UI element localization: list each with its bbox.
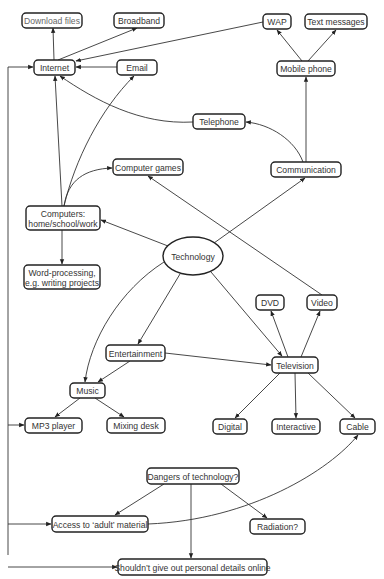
node-music: Music	[70, 383, 105, 398]
edge-technology-to-television	[211, 272, 282, 356]
edge-dangers-to-access	[115, 484, 164, 515]
node-label: Digital	[218, 422, 242, 432]
edge-entertainment-to-television	[165, 353, 271, 365]
node-communication: Communication	[271, 162, 341, 177]
node-label: Video	[311, 298, 333, 308]
node-mp3: MP3 player	[25, 418, 82, 433]
node-label: Communication	[276, 165, 336, 175]
technology-mind-map: Download filesBroadbandWAPText messagesI…	[0, 0, 384, 579]
node-mixing: Mixing desk	[107, 418, 165, 433]
node-label: Computers:	[41, 209, 85, 219]
node-access: Access to ‘adult’ material	[52, 516, 148, 532]
edge-computers-to-internet	[55, 76, 62, 206]
edge-entertainment-to-music	[98, 361, 130, 382]
node-mobile: Mobile phone	[277, 61, 335, 76]
node-broadband: Broadband	[114, 13, 164, 28]
node-internet: Internet	[34, 60, 75, 75]
node-label: WAP	[267, 17, 287, 27]
node-label: Television	[276, 361, 314, 371]
node-dvd: DVD	[256, 295, 284, 310]
node-television: Television	[272, 357, 318, 373]
node-label: Radiation?	[257, 522, 298, 532]
node-video: Video	[307, 295, 337, 310]
edge-television-to-interactive	[295, 373, 296, 418]
node-label: Music	[76, 386, 99, 396]
node-label: Mobile phone	[280, 64, 332, 74]
node-label: DVD	[261, 298, 279, 308]
node-label: Email	[126, 63, 148, 73]
edge-technology-to-computers	[101, 220, 168, 246]
edge-technology-to-communication	[214, 178, 305, 243]
node-telephone: Telephone	[193, 114, 245, 129]
node-label: Technology	[171, 252, 215, 262]
node-label: Dangers of technology?	[148, 472, 239, 482]
node-dangers: Dangers of technology?	[147, 468, 239, 484]
node-label: Computer games	[115, 163, 181, 173]
node-entertainment: Entertainment	[106, 345, 165, 361]
node-radiation: Radiation?	[250, 519, 305, 534]
node-label: Text messages	[307, 17, 364, 27]
edge-television-to-cable	[308, 373, 355, 418]
node-label: Download files	[24, 16, 80, 26]
node-technology: Technology	[163, 237, 223, 275]
node-label: Interactive	[276, 422, 316, 432]
node-label: MP3 player	[32, 421, 76, 431]
edge-mobile-to-wap	[277, 30, 302, 61]
node-label: home/school/work	[28, 219, 98, 229]
node-games: Computer games	[113, 159, 183, 175]
node-text: Text messages	[305, 14, 367, 29]
edge-computers-to-email	[64, 76, 134, 206]
edge-mobile-to-text	[308, 30, 336, 61]
node-label: Internet	[40, 63, 70, 73]
edge-dangers-to-radiation	[221, 484, 267, 518]
node-label: e.g. writing projects	[25, 278, 99, 288]
node-computers: Computers:home/school/work	[26, 206, 100, 230]
node-wap: WAP	[263, 14, 291, 29]
node-label: Shouldn’t give out personal details onli…	[114, 563, 270, 573]
node-label: Telephone	[199, 117, 239, 127]
node-personal: Shouldn’t give out personal details onli…	[114, 559, 270, 575]
edge-left-bus-to-internet	[8, 67, 33, 555]
node-cable: Cable	[340, 419, 375, 434]
node-interactive: Interactive	[272, 419, 320, 434]
node-label: Entertainment	[109, 349, 163, 359]
edge-television-to-digital	[235, 373, 280, 418]
edge-computers-to-games	[64, 168, 112, 206]
node-label: Mixing desk	[113, 421, 159, 431]
edge-internet-to-download	[53, 28, 54, 60]
edge-video-to-games	[148, 176, 322, 295]
edge-music-to-mp3	[55, 398, 80, 417]
node-label: Broadband	[118, 16, 160, 26]
nodes-layer: Download filesBroadbandWAPText messagesI…	[22, 13, 375, 575]
edge-television-to-video	[301, 311, 320, 357]
edge-communication-to-telephone	[246, 122, 303, 162]
node-download: Download files	[22, 13, 82, 28]
edge-television-to-dvd	[271, 311, 288, 357]
edges-layer	[8, 22, 358, 567]
node-label: Cable	[346, 422, 369, 432]
node-label: Word-processing,	[28, 268, 95, 278]
node-wordproc: Word-processing,e.g. writing projects	[24, 265, 100, 289]
node-label: Access to ‘adult’ material	[53, 520, 148, 530]
edge-internet-to-broadband	[58, 28, 137, 60]
node-digital: Digital	[213, 419, 247, 434]
node-email: Email	[117, 60, 157, 75]
edge-technology-to-entertainment	[138, 274, 180, 344]
edge-telephone-to-internet	[60, 76, 193, 122]
edge-music-to-mixing	[95, 398, 124, 417]
